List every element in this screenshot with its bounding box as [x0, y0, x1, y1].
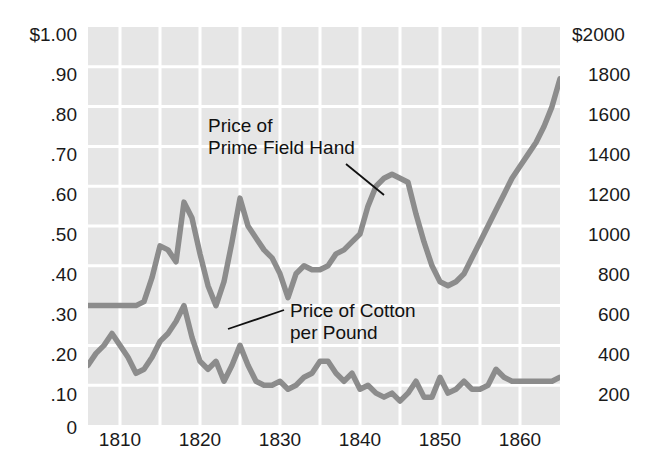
- annotation-prime-field-hand-line2: Prime Field Hand: [208, 137, 355, 159]
- annotation-cotton: Price of Cotton per Pound: [290, 300, 416, 345]
- y-axis-right-tick: 1000: [588, 225, 630, 244]
- x-axis-tick: 1850: [419, 430, 461, 449]
- y-axis-left-tick: .20: [51, 345, 77, 364]
- x-axis-tick: 1840: [339, 430, 381, 449]
- y-axis-right-tick: 400: [598, 345, 630, 364]
- annotation-prime-field-hand-line1: Price of: [208, 115, 355, 137]
- y-axis-right-tick: $2000: [572, 25, 625, 44]
- y-axis-right-tick: 600: [598, 305, 630, 324]
- y-axis-left-tick: .30: [51, 305, 77, 324]
- y-axis-right-tick: 200: [598, 385, 630, 404]
- annotation-cotton-line1: Price of Cotton: [290, 300, 416, 322]
- plot-area: [88, 27, 560, 425]
- chart-figure: $1.00 .90 .80 .70 .60 .50 .40 .30 .20 .1…: [0, 0, 660, 470]
- y-axis-left-tick: .80: [51, 105, 77, 124]
- y-axis-left-tick: .60: [51, 185, 77, 204]
- y-axis-left-tick: $1.00: [29, 25, 77, 44]
- y-axis-right-tick: 1600: [588, 105, 630, 124]
- x-axis-tick: 1810: [99, 430, 141, 449]
- x-axis-tick: 1820: [179, 430, 221, 449]
- y-axis-left-tick: .10: [51, 385, 77, 404]
- y-axis-left-tick: 0: [66, 418, 77, 437]
- y-axis-left-tick: .50: [51, 225, 77, 244]
- annotation-cotton-line2: per Pound: [290, 322, 416, 344]
- x-axis-tick: 1830: [259, 430, 301, 449]
- x-axis-tick: 1860: [499, 430, 541, 449]
- y-axis-left-tick: .90: [51, 65, 77, 84]
- y-axis-right-tick: 1800: [588, 65, 630, 84]
- annotation-prime-field-hand: Price of Prime Field Hand: [208, 115, 355, 160]
- y-axis-left-tick: .70: [51, 145, 77, 164]
- y-axis-right-tick: 1200: [588, 185, 630, 204]
- y-axis-right-tick: 1400: [588, 145, 630, 164]
- y-axis-left-tick: .40: [51, 265, 77, 284]
- y-axis-right-tick: 800: [598, 265, 630, 284]
